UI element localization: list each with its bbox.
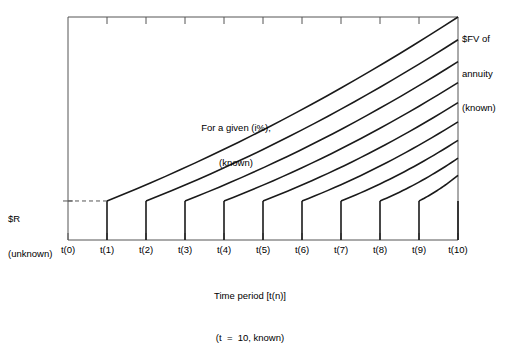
x-axis-caption-line-2: (t = 10, known) [160, 331, 340, 345]
x-axis-caption-line-1: Time period [t(n)] [160, 289, 340, 303]
x-axis-tick-label: t(7) [321, 244, 361, 255]
future-value-label: $FV of annuity (known) [462, 10, 496, 137]
x-axis-tick-label: t(8) [360, 244, 400, 255]
x-axis-tick-label: t(9) [399, 244, 439, 255]
x-axis-tick-label: t(3) [165, 244, 205, 255]
deposit-level-label: $R (unknown) [8, 190, 52, 282]
future-value-line-1: $FV of [462, 33, 496, 45]
x-axis-tick-label: t(5) [243, 244, 283, 255]
interest-rate-annotation-line-2: (known) [176, 157, 296, 169]
x-axis-tick-label: t(4) [204, 244, 244, 255]
x-axis-tick-label: t(6) [282, 244, 322, 255]
x-axis-tick-label: t(0) [48, 244, 88, 255]
x-axis-caption: Time period [t(n)] (t = 10, known) [160, 261, 340, 347]
future-value-line-2: annuity [462, 68, 496, 80]
x-axis-tick-label: t(10) [438, 244, 478, 255]
deposit-level-note: (unknown) [8, 248, 52, 260]
x-axis-tick-label: t(1) [87, 244, 127, 255]
deposit-level-symbol: $R [8, 213, 52, 225]
future-value-line-3: (known) [462, 102, 496, 114]
top-tick-marks [107, 17, 419, 24]
deposit-growth-curve [302, 122, 458, 201]
interest-rate-annotation: For a given (i%), (known) [176, 99, 296, 191]
x-axis-tick-label: t(2) [126, 244, 166, 255]
interest-rate-annotation-line-1: For a given (i%), [176, 122, 296, 134]
